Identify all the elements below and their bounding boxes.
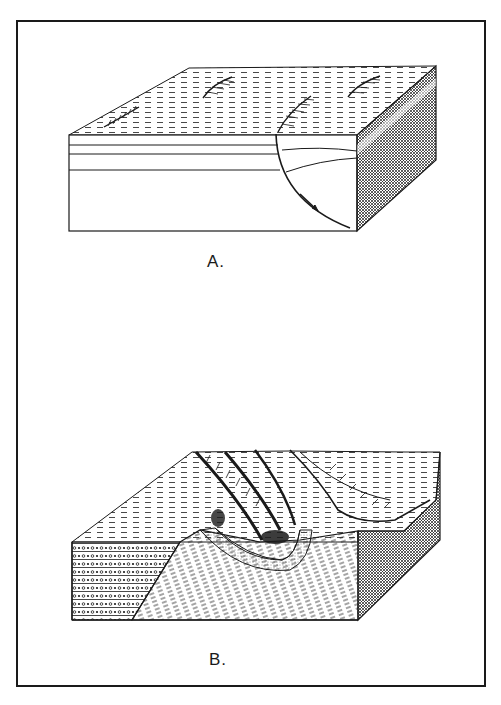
block-a-front-face xyxy=(69,135,357,231)
panel-label-a: A. xyxy=(207,252,225,272)
panel-label-b: B. xyxy=(209,650,227,670)
figure-artwork xyxy=(0,0,501,705)
block-diagram-a xyxy=(69,66,436,231)
block-diagram-b xyxy=(72,450,440,620)
